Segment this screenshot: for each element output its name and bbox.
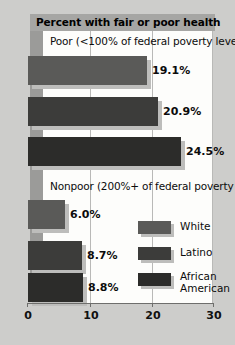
bar-value-nonpoor-latino: 8.7% bbox=[87, 249, 118, 262]
group-label-nonpoor: Nonpoor (200%+ of federal poverty level) bbox=[50, 180, 235, 192]
x-axis-tick-0 bbox=[27, 303, 28, 307]
bar-poor-african-american bbox=[28, 137, 181, 166]
bar-value-nonpoor-african-american: 8.8% bbox=[88, 281, 119, 294]
legend-label-african-american: African bbox=[180, 271, 217, 283]
x-axis-label-20: 20 bbox=[145, 309, 160, 322]
x-axis-line bbox=[27, 303, 214, 304]
chart-title-band: Percent with fair or poor health bbox=[30, 14, 215, 31]
x-axis-label-10: 10 bbox=[83, 309, 98, 322]
x-axis-tick-10 bbox=[90, 303, 91, 307]
bar-value-poor-white: 19.1% bbox=[152, 64, 190, 77]
legend-label-white: White bbox=[180, 221, 211, 233]
legend-swatch-white bbox=[138, 221, 171, 234]
bar-poor-latino bbox=[28, 97, 158, 126]
bar-poor-white bbox=[28, 56, 147, 85]
x-axis-tick-20 bbox=[152, 303, 153, 307]
x-axis-tick-30 bbox=[213, 303, 214, 307]
bar-nonpoor-african-american bbox=[28, 273, 83, 302]
page-title: Percent with fair or poor health bbox=[36, 16, 220, 28]
gridline-30 bbox=[212, 31, 213, 303]
chart-figure: Percent with fair or poor health Poor (<… bbox=[0, 0, 235, 345]
legend-label-latino: Latino bbox=[180, 247, 212, 259]
bar-value-nonpoor-white: 6.0% bbox=[70, 208, 101, 221]
x-axis-label-30: 30 bbox=[206, 309, 221, 322]
legend-label-african-american-line2: American bbox=[180, 283, 230, 295]
bar-nonpoor-latino bbox=[28, 241, 82, 270]
legend-swatch-african-american bbox=[138, 273, 171, 286]
x-axis-label-0: 0 bbox=[24, 309, 32, 322]
legend-swatch-latino bbox=[138, 247, 171, 260]
bar-nonpoor-white bbox=[28, 200, 65, 229]
group-label-poor: Poor (<100% of federal poverty level) bbox=[50, 35, 235, 47]
bar-value-poor-latino: 20.9% bbox=[163, 105, 201, 118]
bar-value-poor-african-american: 24.5% bbox=[186, 145, 224, 158]
